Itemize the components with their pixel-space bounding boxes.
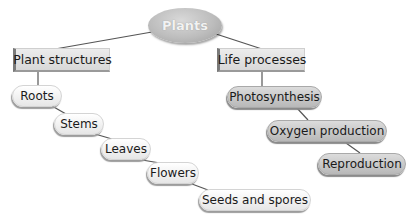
node-leaves: Leaves	[101, 138, 151, 160]
link-photosynthesis-oxygen	[296, 107, 308, 120]
node-seeds-and-spores: Seeds and spores	[199, 189, 311, 211]
link-root-processes	[216, 34, 262, 49]
node-photosynthesis: Photosynthesis	[227, 86, 322, 108]
node-roots: Roots	[12, 85, 62, 107]
branch-life-processes: Life processes	[217, 48, 305, 72]
node-flowers: Flowers	[147, 162, 199, 184]
root-node-plants: Plants	[148, 8, 222, 43]
node-stems: Stems	[54, 113, 104, 135]
link-root-structures	[55, 32, 152, 49]
branch-plant-structures: Plant structures	[13, 48, 110, 72]
node-oxygen-production: Oxygen production	[267, 120, 387, 142]
node-reproduction: Reproduction	[318, 153, 406, 175]
link-oxygen-reproduction	[346, 143, 360, 153]
